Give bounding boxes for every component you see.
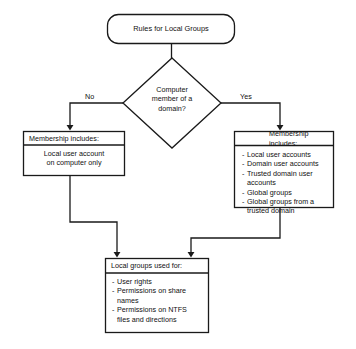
flowchart-canvas	[0, 0, 356, 349]
decision-node-shape	[123, 58, 221, 148]
edge-decision-to-no-branch	[70, 103, 123, 129]
edge-decision-to-yes-branch	[221, 103, 280, 129]
edge-no-branch-to-result	[70, 176, 117, 257]
yes-branch-node-shape	[235, 132, 334, 208]
flowchart-diagram: Rules for Local Groups Computer member o…	[0, 0, 356, 349]
edge-yes-branch-to-result	[191, 208, 280, 257]
no-branch-node-shape	[24, 132, 125, 176]
result-node-shape	[106, 259, 209, 333]
title-node-shape	[108, 15, 235, 44]
